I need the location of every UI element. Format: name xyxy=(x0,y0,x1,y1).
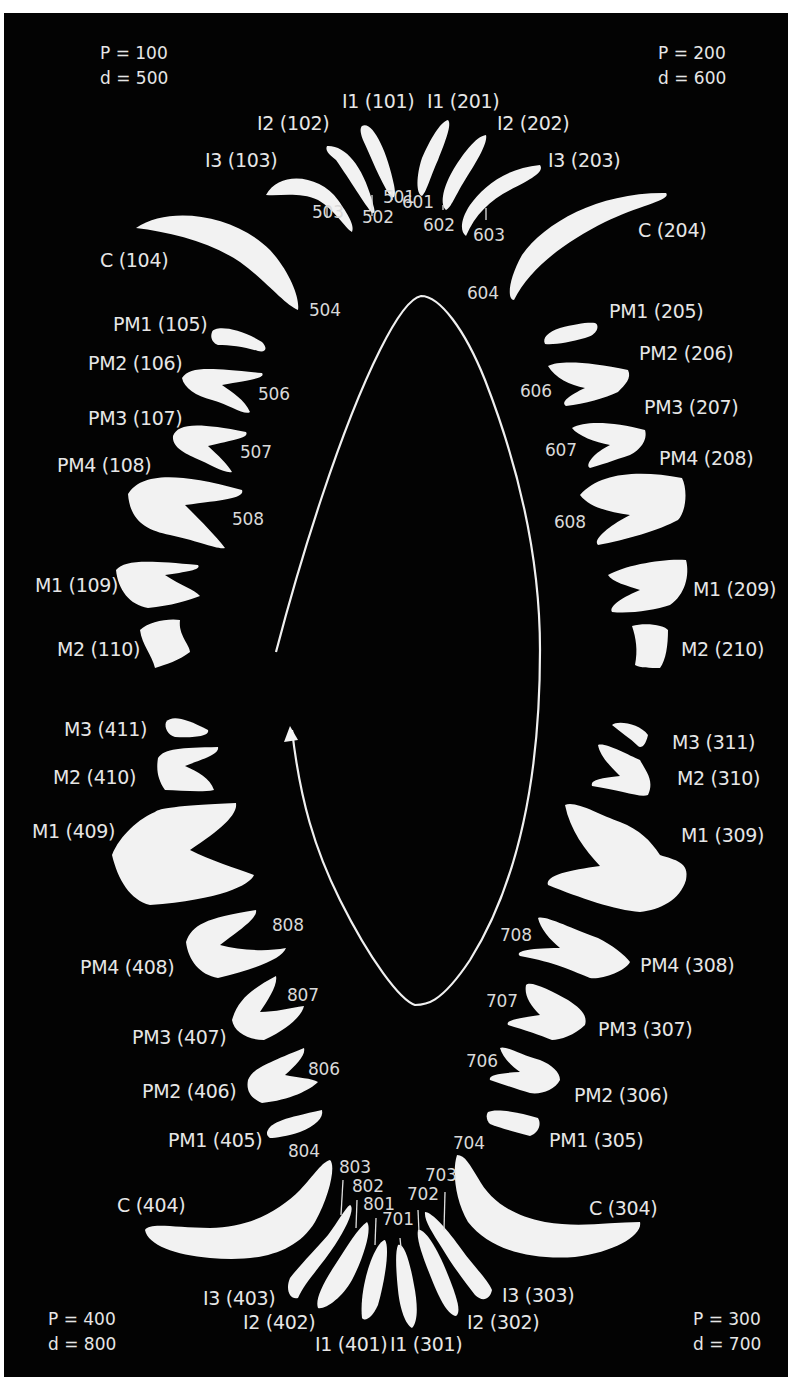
deciduous-label-507: 507 xyxy=(240,444,272,461)
deciduous-label-502: 502 xyxy=(362,209,394,226)
tooth-107 xyxy=(173,426,247,473)
tooth-208 xyxy=(580,474,685,545)
tooth-label-107: PM3 (107) xyxy=(88,409,182,428)
tooth-409 xyxy=(112,803,254,905)
tooth-201 xyxy=(418,120,450,196)
tooth-105 xyxy=(211,328,265,351)
permanent-prefix: P = 100 xyxy=(100,41,168,66)
tooth-label-405: PM1 (405) xyxy=(168,1131,262,1150)
tooth-405 xyxy=(267,1110,322,1138)
deciduous-label-804: 804 xyxy=(288,1143,320,1160)
deciduous-label-807: 807 xyxy=(287,987,319,1004)
tooth-label-109: M1 (109) xyxy=(35,576,118,595)
tooth-label-201: I1 (201) xyxy=(427,92,499,111)
deciduous-label-504: 504 xyxy=(309,302,341,319)
tooth-205 xyxy=(544,323,597,344)
deciduous-label-608: 608 xyxy=(554,514,586,531)
quadrant-legend-300: P = 300 d = 700 xyxy=(693,1307,761,1357)
deciduous-label-802: 802 xyxy=(352,1178,384,1195)
deciduous-prefix: d = 600 xyxy=(658,66,726,91)
tooth-label-206: PM2 (206) xyxy=(639,344,733,363)
tooth-label-302: I2 (302) xyxy=(467,1313,539,1332)
tooth-label-310: M2 (310) xyxy=(677,769,760,788)
deciduous-label-803: 803 xyxy=(339,1159,371,1176)
tooth-label-407: PM3 (407) xyxy=(132,1028,226,1047)
tooth-label-205: PM1 (205) xyxy=(609,302,703,321)
tooth-label-403: I3 (403) xyxy=(203,1289,275,1308)
quadrant-legend-400: P = 400 d = 800 xyxy=(48,1307,116,1357)
tooth-408 xyxy=(186,910,286,978)
tooth-label-105: PM1 (105) xyxy=(113,315,207,334)
tooth-207 xyxy=(572,423,646,468)
arrow-head-icon xyxy=(284,726,298,742)
deciduous-label-603: 603 xyxy=(473,227,505,244)
tooth-310 xyxy=(592,745,651,796)
tooth-label-106: PM2 (106) xyxy=(88,354,182,373)
tooth-label-110: M2 (110) xyxy=(57,640,140,659)
tooth-label-409: M1 (409) xyxy=(32,822,115,841)
tooth-311 xyxy=(612,723,648,747)
tooth-label-203: I3 (203) xyxy=(548,151,620,170)
tooth-label-411: M3 (411) xyxy=(64,720,147,739)
permanent-prefix: P = 300 xyxy=(693,1307,761,1332)
deciduous-label-602: 602 xyxy=(423,217,455,234)
tooth-label-406: PM2 (406) xyxy=(142,1082,236,1101)
deciduous-label-706: 706 xyxy=(466,1053,498,1070)
deciduous-label-808: 808 xyxy=(272,917,304,934)
tooth-401 xyxy=(362,1240,387,1319)
tooth-110 xyxy=(140,619,190,668)
tooth-204 xyxy=(510,193,667,300)
permanent-prefix: P = 400 xyxy=(48,1307,116,1332)
tooth-label-209: M1 (209) xyxy=(693,580,776,599)
tooth-label-210: M2 (210) xyxy=(681,640,764,659)
tooth-label-202: I2 (202) xyxy=(497,114,569,133)
deciduous-label-701: 701 xyxy=(382,1211,414,1228)
tooth-label-308: PM4 (308) xyxy=(640,956,734,975)
tooth-206 xyxy=(548,363,629,406)
tooth-label-402: I2 (402) xyxy=(243,1313,315,1332)
deciduous-label-702: 702 xyxy=(407,1186,439,1203)
tooth-label-304: C (304) xyxy=(589,1199,657,1218)
deciduous-label-606: 606 xyxy=(520,383,552,400)
leader-802 xyxy=(356,1200,357,1228)
deciduous-label-506: 506 xyxy=(258,386,290,403)
leader-703 xyxy=(444,1192,445,1230)
tooth-label-307: PM3 (307) xyxy=(598,1020,692,1039)
deciduous-label-707: 707 xyxy=(486,993,518,1010)
tooth-label-306: PM2 (306) xyxy=(574,1086,668,1105)
tooth-label-305: PM1 (305) xyxy=(549,1131,643,1150)
deciduous-label-508: 508 xyxy=(232,511,264,528)
tooth-label-102: I2 (102) xyxy=(257,114,329,133)
tooth-label-208: PM4 (208) xyxy=(659,449,753,468)
tooth-308 xyxy=(519,918,630,979)
deciduous-prefix: d = 500 xyxy=(100,66,168,91)
deciduous-label-708: 708 xyxy=(500,927,532,944)
dentition-diagram xyxy=(0,0,795,1380)
deciduous-label-704: 704 xyxy=(453,1135,485,1152)
tooth-309 xyxy=(548,804,687,912)
tooth-label-207: PM3 (207) xyxy=(644,398,738,417)
tooth-411 xyxy=(165,718,208,737)
deciduous-label-703: 703 xyxy=(425,1167,457,1184)
tooth-410 xyxy=(157,747,218,791)
deciduous-label-607: 607 xyxy=(545,442,577,459)
tooth-402 xyxy=(317,1222,368,1308)
leader-803 xyxy=(341,1180,343,1215)
tooth-109 xyxy=(116,562,200,608)
deciduous-label-601: 601 xyxy=(402,194,434,211)
deciduous-label-806: 806 xyxy=(308,1061,340,1078)
tooth-305 xyxy=(487,1110,540,1136)
tooth-label-204: C (204) xyxy=(638,221,706,240)
tooth-label-301: I1 (301) xyxy=(390,1335,462,1354)
tooth-108 xyxy=(128,477,242,548)
leader-801 xyxy=(375,1218,376,1245)
tooth-209 xyxy=(608,560,687,613)
quadrant-legend-100: P = 100 d = 500 xyxy=(100,41,168,91)
deciduous-prefix: d = 700 xyxy=(693,1332,761,1357)
tooth-106 xyxy=(182,369,263,413)
tooth-label-103: I3 (103) xyxy=(205,151,277,170)
tooth-label-401: I1 (401) xyxy=(315,1335,387,1354)
clockwise-arrow-path xyxy=(276,296,540,1005)
tooth-label-410: M2 (410) xyxy=(53,768,136,787)
tooth-label-404: C (404) xyxy=(117,1196,185,1215)
